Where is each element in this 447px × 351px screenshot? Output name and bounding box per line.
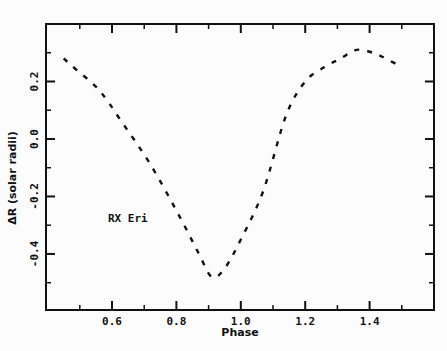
star-name-annotation: RX Eri bbox=[108, 212, 148, 225]
y-axis-ticks: 0.20.0-0.2-0.4 bbox=[28, 53, 434, 283]
x-tick-label: 0.6 bbox=[102, 315, 122, 328]
y-tick-label: 0.2 bbox=[28, 72, 41, 92]
plot-border bbox=[46, 24, 434, 310]
y-tick-label: 0.0 bbox=[28, 129, 41, 149]
x-axis-label: Phase bbox=[221, 326, 258, 339]
data-series bbox=[64, 50, 402, 278]
x-axis-ticks: 0.60.81.01.21.4 bbox=[80, 24, 402, 328]
plot-frame bbox=[46, 24, 434, 310]
y-tick-label: -0.2 bbox=[28, 183, 41, 210]
chart: 0.60.81.01.21.4 0.20.0-0.2-0.4 Phase ΔR … bbox=[0, 0, 447, 351]
x-tick-label: 1.2 bbox=[295, 315, 315, 328]
x-tick-label: 0.8 bbox=[166, 315, 186, 328]
x-tick-label: 1.4 bbox=[360, 315, 380, 328]
rx-eri-radius-curve bbox=[64, 50, 402, 278]
y-tick-label: -0.4 bbox=[28, 240, 41, 267]
y-axis-label: ΔR (solar radii) bbox=[6, 131, 19, 225]
